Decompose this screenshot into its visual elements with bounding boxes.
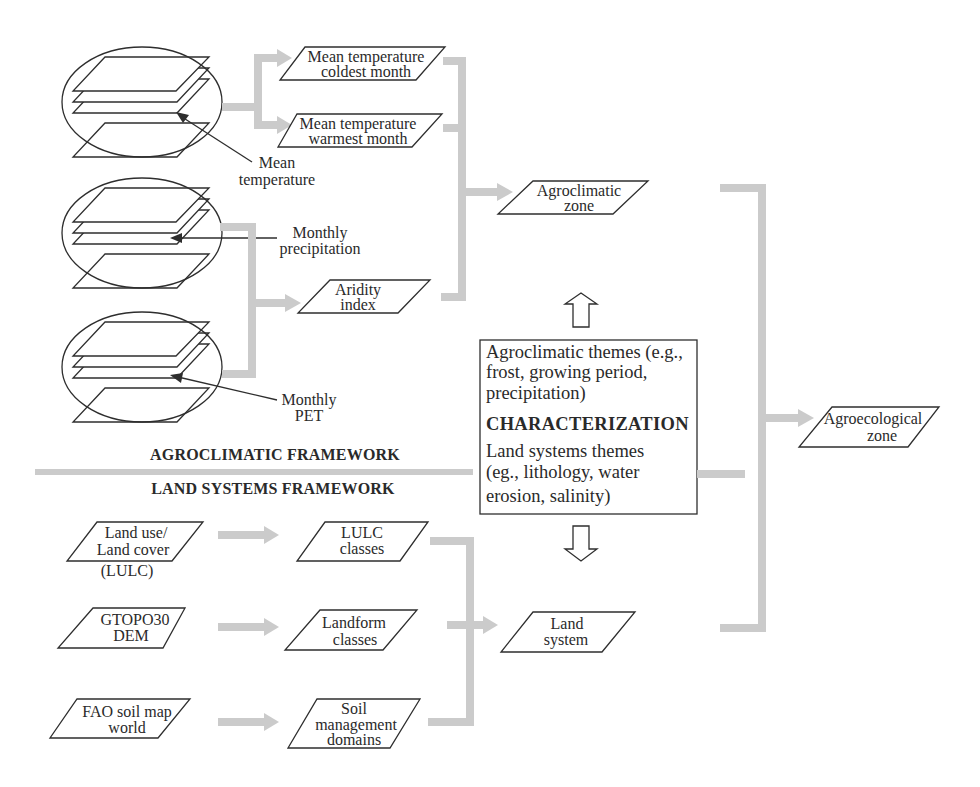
svg-text:Landform: Landform <box>322 614 387 631</box>
agroecological-zoning-diagram: Mean temperature Monthly precipitation M… <box>0 0 980 787</box>
svg-text:erosion, salinity): erosion, salinity) <box>486 486 610 507</box>
svg-text:system: system <box>544 631 589 649</box>
connector-soil <box>218 713 279 731</box>
node-gtopo30-dem: GTOPO30 DEM <box>58 608 185 648</box>
svg-text:Agroecological: Agroecological <box>824 410 923 428</box>
arrowhead-icon <box>264 526 279 544</box>
node-land-use-land-cover: Land use/ Land cover (LULC) <box>67 522 203 580</box>
characterization-box: Agroclimatic themes (e.g., frost, growin… <box>480 340 697 514</box>
monthly-precipitation-label: Monthly precipitation <box>280 224 361 258</box>
svg-text:zone: zone <box>564 197 594 214</box>
svg-text:(eg., lithology, water: (eg., lithology, water <box>486 462 639 483</box>
arrowhead-icon <box>285 294 301 312</box>
svg-text:precipitation: precipitation <box>280 240 361 258</box>
mean-temperature-label: Mean temperature <box>239 154 315 189</box>
svg-text:Land: Land <box>551 615 584 632</box>
connector-lulc <box>218 526 279 544</box>
arrowhead-icon <box>264 618 279 636</box>
node-fao-soil-map: FAO soil map world <box>50 699 190 738</box>
characterization-title: CHARACTERIZATION <box>486 414 689 434</box>
node-agroecological-zone: Agroecological zone <box>799 407 939 447</box>
svg-text:temperature: temperature <box>239 171 315 189</box>
connector-landform <box>218 618 279 636</box>
raster-layer-stack-icon <box>62 178 222 288</box>
node-agroclimatic-zone: Agroclimatic zone <box>498 181 648 214</box>
svg-text:domains: domains <box>327 731 381 748</box>
arrowhead-icon <box>483 616 498 634</box>
node-aridity-index: Aridity index <box>298 280 430 313</box>
svg-text:Mean: Mean <box>259 154 295 171</box>
svg-text:Land systems themes: Land systems themes <box>486 441 644 461</box>
arrowhead-icon <box>277 49 292 67</box>
connector-mean-temperature <box>222 49 292 134</box>
connector-to-land-system <box>428 537 498 726</box>
monthly-pet-stack <box>62 312 222 422</box>
mean-temperature-stack <box>62 47 222 157</box>
arrowhead-icon <box>264 713 279 731</box>
monthly-precipitation-stack <box>62 178 222 288</box>
arrowhead-icon <box>497 183 513 201</box>
raster-layer-stack-icon <box>62 47 222 157</box>
agroclimatic-framework-heading: AGROCLIMATIC FRAMEWORK <box>150 446 400 463</box>
svg-text:PET: PET <box>295 407 324 424</box>
node-landform-classes: Landform classes <box>285 610 417 650</box>
svg-text:GTOPO30: GTOPO30 <box>100 611 169 628</box>
connector-to-agroecological-zone <box>697 184 814 632</box>
svg-text:index: index <box>340 296 376 313</box>
node-mean-temp-warmest-month: Mean temperature warmest month <box>278 114 442 147</box>
arrowhead-icon <box>798 409 814 427</box>
svg-text:LULC: LULC <box>341 524 383 541</box>
raster-layer-stack-icon <box>62 312 222 422</box>
lulc-note: (LULC) <box>101 562 153 580</box>
svg-text:warmest month: warmest month <box>308 130 407 147</box>
land-systems-framework-heading: LAND SYSTEMS FRAMEWORK <box>151 480 395 497</box>
node-mean-temp-coldest-month: Mean temperature coldest month <box>280 47 445 80</box>
svg-text:Soil: Soil <box>341 700 367 717</box>
arrowhead-icon <box>176 112 189 123</box>
node-soil-management-domains: Soil management domains <box>288 699 420 748</box>
svg-text:zone: zone <box>867 427 897 444</box>
node-lulc-classes: LULC classes <box>297 522 428 561</box>
svg-text:classes: classes <box>333 631 377 648</box>
svg-text:DEM: DEM <box>113 627 149 644</box>
hollow-up-arrow-icon <box>565 293 597 327</box>
monthly-pet-label: Monthly PET <box>281 391 336 424</box>
svg-text:precipitation): precipitation) <box>486 383 586 404</box>
connector-to-agroclimatic-zone <box>441 57 513 301</box>
svg-text:Land cover: Land cover <box>97 541 170 558</box>
svg-text:Agroclimatic themes (e.g.,: Agroclimatic themes (e.g., <box>486 342 683 363</box>
hollow-down-arrow-icon <box>565 526 597 561</box>
svg-text:classes: classes <box>340 540 384 557</box>
svg-text:world: world <box>108 719 145 736</box>
svg-text:coldest month: coldest month <box>321 63 411 80</box>
svg-text:frost, growing period,: frost, growing period, <box>486 362 647 382</box>
svg-text:Land use/: Land use/ <box>105 524 168 541</box>
node-land-system: Land system <box>501 612 635 652</box>
